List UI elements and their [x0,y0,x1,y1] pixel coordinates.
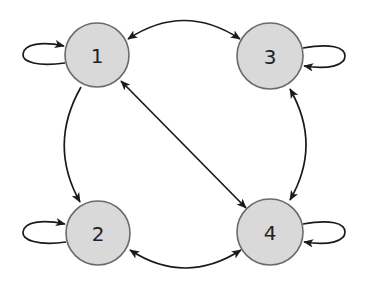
node-1-label: 1 [91,44,104,68]
state-diagram: 1 2 3 4 [0,0,366,283]
edge-3-4 [290,89,306,200]
node-4-label: 4 [264,221,277,245]
self-loop-2 [23,222,66,244]
node-4: 4 [237,199,303,265]
node-1: 1 [65,23,129,87]
node-3-label: 3 [264,45,277,69]
edge-1-2 [64,87,81,202]
node-3: 3 [237,23,303,89]
node-2-label: 2 [92,222,105,246]
edge-1-3 [128,21,240,40]
edge-1-4 [121,81,246,208]
self-loop-4 [303,222,345,244]
edge-2-4 [130,250,241,268]
node-2: 2 [66,201,130,265]
self-loop-3 [303,46,345,68]
self-loop-1 [23,44,65,65]
